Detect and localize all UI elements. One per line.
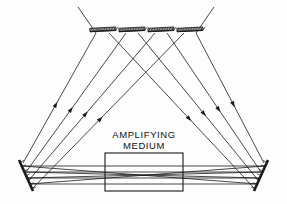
crossing-beam-group	[22, 166, 265, 184]
ray-left-up-2	[26, 33, 126, 172]
ray-right-up-2	[167, 33, 261, 172]
optics-diagram: AMPLIFYING MEDIUM	[0, 0, 287, 204]
figure-canvas: AMPLIFYING MEDIUM	[0, 0, 287, 204]
top-fold-mirror-2	[119, 27, 148, 32]
beam-direction-arrow-group	[53, 101, 235, 123]
ray-left-up-1-direction-arrow	[53, 102, 58, 108]
ray-left-up-1	[23, 33, 96, 163]
amplifying-medium-label-line1: AMPLIFYING	[112, 129, 176, 140]
top-fold-mirror-group	[90, 27, 206, 32]
ray-left-up-2-direction-arrow	[68, 107, 73, 113]
pass-x-4	[29, 166, 265, 184]
ray-right-up-3	[138, 33, 258, 180]
amplifying-medium-label-line2: MEDIUM	[123, 140, 165, 151]
top-fold-mirror-4	[177, 27, 206, 32]
ray-right-up-1	[196, 33, 264, 163]
top-fold-mirror-1	[90, 27, 119, 32]
ray-left-up-3	[29, 33, 155, 180]
right-end-mirror	[251, 160, 268, 191]
ray-right-up-1-direction-arrow	[230, 101, 235, 107]
top-fold-mirror-3	[148, 27, 177, 32]
ray-right-up-2-direction-arrow	[215, 106, 220, 112]
